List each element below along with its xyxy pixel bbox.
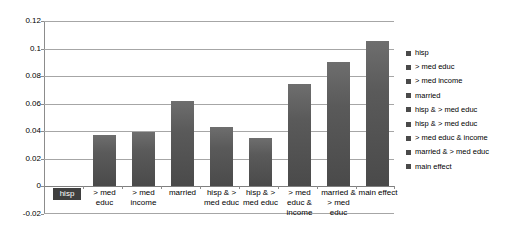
y-tick-label-6: 0 [1,182,41,190]
x-axis-labels: hisp > med educ > med income married his… [44,188,394,235]
legend-item-main-effect[interactable]: main effect [406,160,507,174]
legend-item-med-educ-income[interactable]: > med educ & income [406,131,507,145]
legend-item-married-med-educ[interactable]: married & > med educ [406,145,507,159]
legend-item-med-educ[interactable]: > med educ [406,60,507,74]
x-label-hisp-med-educ-2: hisp & > med educ [241,188,280,208]
legend-label-4: hisp & > med educ [415,106,477,114]
y-tick-label-1: 0.1 [1,45,41,53]
bar-married[interactable] [171,101,194,187]
y-tick-label-2: 0.08 [1,72,41,80]
y-tick-label-5: 0.02 [1,155,41,163]
x-label-med-educ-line-0: > med [85,188,124,198]
legend-swatch-icon-1 [406,65,411,70]
x-label-med-educ-income-line-2: income [280,208,319,218]
y-tick-label-0: 0.12 [1,17,41,25]
bar-married-med-educ[interactable] [327,62,350,186]
x-label-hisp-med-educ-1: hisp & > med educ [202,188,241,208]
legend-label-8: main effect [415,163,452,171]
bar-med-educ-income[interactable] [288,84,311,186]
legend-item-med-income[interactable]: > med income [406,74,507,88]
x-label-med-educ-income-line-0: > med [280,188,319,198]
x-label-married: married [163,188,202,198]
x-label-hisp-med-educ-2-line-0: hisp & > [241,188,280,198]
legend-swatch-icon-5 [406,122,411,127]
y-tick-label-4: 0.04 [1,127,41,135]
x-label-hisp: hisp [53,188,81,200]
legend-label-0: hisp [415,49,429,57]
legend-swatch-icon-6 [406,136,411,141]
chart-legend: hisp > med educ > med income married his… [406,46,507,174]
legend-item-hisp-med-educ-1[interactable]: hisp & > med educ [406,103,507,117]
x-label-main-effect-line-0: main effect [358,188,398,198]
legend-swatch-icon-0 [406,51,411,56]
x-label-married-med-educ-line-0: married & [319,188,358,198]
y-axis-labels: 0.12 0.1 0.08 0.06 0.04 0.02 0 -0.02 [0,0,41,235]
legend-item-hisp[interactable]: hisp [406,46,507,60]
legend-label-3: married [415,92,440,100]
legend-swatch-icon-4 [406,107,411,112]
legend-label-2: > med income [415,77,462,85]
x-label-married-med-educ: married & > med educ [319,188,358,218]
x-label-married-med-educ-line-2: educ [319,208,358,218]
legend-item-married[interactable]: married [406,89,507,103]
bar-chart: 0.12 0.1 0.08 0.06 0.04 0.02 0 -0.02 [0,0,507,235]
y-tick-label-7: -0.02 [1,210,41,218]
legend-swatch-icon-8 [406,164,411,169]
legend-label-1: > med educ [415,63,454,71]
x-label-main-effect: main effect [358,188,398,198]
x-label-med-educ-line-1: educ [85,198,124,208]
legend-label-5: hisp & > med educ [415,120,477,128]
legend-item-hisp-med-educ-2[interactable]: hisp & > med educ [406,117,507,131]
x-label-married-med-educ-line-1: > med [319,198,358,208]
y-tick-label-3: 0.06 [1,100,41,108]
x-label-hisp-med-educ-1-line-1: med educ [202,198,241,208]
x-label-med-educ-income-line-1: educ & [280,198,319,208]
x-label-med-educ-income: > med educ & income [280,188,319,218]
x-label-hisp-line-0: hisp [60,189,75,198]
x-label-married-line-0: married [163,188,202,198]
bars-layer [44,21,394,214]
x-label-hisp-med-educ-2-line-1: med educ [241,198,280,208]
x-label-med-income: > med income [124,188,163,208]
bar-med-income[interactable] [132,132,155,186]
x-label-med-educ: > med educ [85,188,124,208]
legend-label-6: > med educ & income [415,134,488,142]
x-label-hisp-med-educ-1-line-0: hisp & > [202,188,241,198]
legend-swatch-icon-7 [406,150,411,155]
bar-main-effect[interactable] [366,41,389,186]
legend-label-7: married & > med educ [415,148,489,156]
bar-med-educ[interactable] [93,135,116,186]
legend-swatch-icon-3 [406,93,411,98]
x-label-med-income-line-1: income [124,198,163,208]
bar-hisp-med-educ-2[interactable] [249,138,272,186]
x-label-med-income-line-0: > med [124,188,163,198]
legend-swatch-icon-2 [406,79,411,84]
bar-hisp-med-educ-1[interactable] [210,127,233,186]
